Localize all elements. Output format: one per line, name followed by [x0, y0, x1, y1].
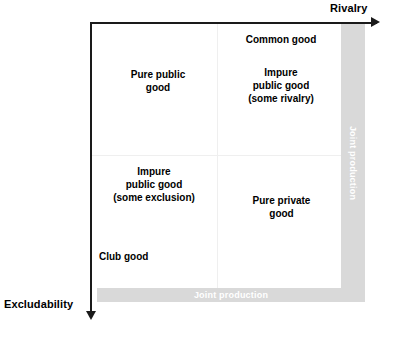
arrow-right-icon: [371, 17, 380, 27]
quadrant-divider-vertical: [217, 24, 218, 288]
cell-label-impure-public-good-exclusion: Impure public good (some exclusion): [92, 165, 216, 204]
rivalry-axis-line: [90, 22, 377, 24]
excludability-axis-label: Excludability: [4, 298, 73, 310]
cell-label-pure-public-good: Pure public good: [104, 68, 212, 94]
joint-production-label-right-text: Joint production: [348, 126, 358, 200]
cell-label-impure-public-good-rivalry: Impure public good (some rivalry): [222, 66, 340, 105]
goods-typology-diagram: Joint production Joint production Rivalr…: [0, 0, 405, 339]
joint-production-label-right: Joint production: [341, 118, 365, 208]
quadrant-divider-horizontal: [92, 155, 341, 156]
cell-label-pure-private-good: Pure private good: [224, 194, 339, 220]
joint-production-label-bottom-text: Joint production: [194, 290, 268, 300]
cell-label-common-good: Common good: [225, 33, 337, 46]
arrow-down-icon: [86, 311, 96, 320]
joint-production-label-bottom: Joint production: [97, 288, 365, 302]
rivalry-axis-label: Rivalry: [330, 2, 367, 14]
cell-label-club-good: Club good: [99, 250, 209, 263]
